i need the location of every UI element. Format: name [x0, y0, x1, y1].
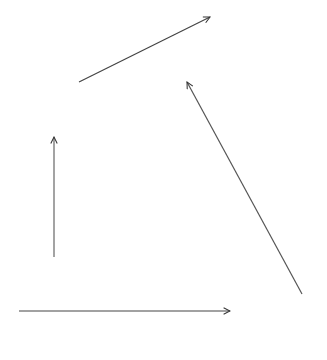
- arrow-up-left: [187, 82, 302, 294]
- diagram-canvas: [0, 0, 327, 360]
- arrow-up-right: [79, 17, 210, 82]
